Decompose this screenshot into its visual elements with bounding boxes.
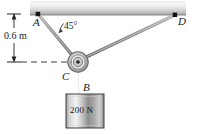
label-point-c: C — [62, 71, 69, 82]
label-point-b: B — [83, 82, 90, 93]
label-weight-200-n: 200 N — [70, 106, 93, 115]
mechanics-figure: A D C B 45° 0.6 m 200 N — [0, 0, 202, 134]
pulley-c — [68, 52, 88, 72]
label-point-a: A — [33, 17, 40, 28]
figure-canvas — [0, 0, 202, 134]
label-angle-45: 45° — [64, 22, 77, 32]
support-bar — [30, 2, 186, 15]
anchor-point-d — [173, 13, 178, 17]
cable-cd — [80, 15, 175, 60]
label-dimension-0-6-m: 0.6 m — [4, 31, 27, 41]
angle-arc-45 — [59, 24, 64, 34]
label-point-d: D — [178, 16, 186, 27]
